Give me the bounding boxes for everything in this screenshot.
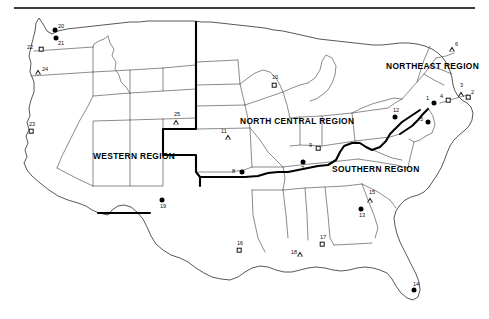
- pa-md-line: [355, 134, 400, 141]
- sd-ne-line: [196, 84, 240, 85]
- triangle-marker-icon: [35, 70, 41, 75]
- id-nv-ut-line: [93, 70, 130, 93]
- nd-sd-line: [196, 60, 238, 62]
- wa-id-line: [93, 36, 108, 47]
- la-ms-line: [283, 190, 288, 238]
- id-mt-line: [108, 36, 130, 93]
- site-number-label: 18: [291, 249, 297, 255]
- square-marker-icon: [39, 47, 44, 52]
- de-md-outline: [409, 136, 426, 142]
- mt-wy-line: [130, 68, 163, 70]
- circle-marker-icon: [432, 101, 437, 106]
- square-marker-icon: [446, 98, 451, 103]
- square-marker-icon: [29, 129, 34, 134]
- ia-il-line: [245, 92, 290, 118]
- sc-nc-line: [362, 184, 396, 208]
- al-ga-line: [325, 187, 334, 245]
- region-label-northeast: NORTHEAST REGION: [386, 62, 479, 71]
- site-number-label: 25: [174, 111, 180, 117]
- tn-ms-al-ga-line: [283, 184, 362, 190]
- site-number-label: 20: [58, 23, 64, 29]
- square-marker-icon: [272, 83, 277, 88]
- map-outline-svg: [0, 0, 489, 319]
- circle-marker-icon: [412, 288, 417, 293]
- site-number-label: 17: [320, 234, 326, 240]
- site-number-label: 24: [42, 66, 48, 72]
- region-label-western: WESTERN REGION: [93, 152, 175, 161]
- square-marker-icon: [237, 248, 242, 253]
- square-marker-icon: [320, 242, 325, 247]
- nv-ut-line: [93, 93, 130, 96]
- mo-il-line: [250, 128, 283, 167]
- triangle-marker-icon: [458, 92, 464, 97]
- ar-ms-line: [283, 167, 285, 190]
- co-wy-line: [163, 89, 196, 91]
- site-number-label: 2: [471, 89, 474, 95]
- site-number-label: 6: [455, 41, 458, 47]
- ne-states-line-1: [424, 74, 444, 85]
- site-number-label: 3: [460, 82, 463, 88]
- tx-la-line: [252, 190, 265, 252]
- region-label-southern: SOUTHERN REGION: [332, 165, 420, 174]
- site-number-label: 22: [27, 44, 33, 50]
- circle-marker-icon: [301, 160, 306, 165]
- ne-ia-line: [240, 84, 245, 105]
- ca-nv-line: [57, 72, 93, 168]
- triangle-marker-icon: [297, 252, 303, 257]
- site-number-label: 4: [440, 93, 443, 99]
- wy-ut-co-line: [130, 68, 163, 93]
- circle-marker-icon: [393, 115, 398, 120]
- site-number-label: 10: [272, 74, 278, 80]
- ca-az-line: [57, 168, 93, 186]
- circle-marker-icon: [160, 198, 165, 203]
- triangle-marker-icon: [367, 198, 373, 203]
- ga-fl-line: [334, 243, 372, 245]
- site-number-label: 19: [160, 203, 166, 209]
- site-number-label: 23: [29, 121, 35, 127]
- triangle-marker-icon: [225, 135, 231, 140]
- circle-marker-icon: [53, 28, 58, 33]
- site-number-label: 16: [237, 240, 243, 246]
- site-number-label: 1: [426, 95, 429, 101]
- ms-al-line: [305, 188, 308, 240]
- wi-mi-line: [283, 83, 308, 92]
- triangle-marker-icon: [449, 47, 455, 52]
- site-number-label: 13: [359, 212, 365, 218]
- site-number-label: 14: [413, 281, 419, 287]
- site-number-label: 9: [309, 142, 312, 148]
- circle-marker-icon: [359, 207, 364, 212]
- nm-co-line: [130, 119, 163, 120]
- site-number-label: 12: [393, 107, 399, 113]
- circle-marker-icon: [426, 120, 431, 125]
- site-number-label: 7: [301, 165, 304, 171]
- western-region-boundary: [163, 22, 200, 186]
- ok-tx-line: [163, 155, 252, 172]
- ut-az-line: [93, 93, 130, 186]
- ok-ar-line: [250, 128, 252, 167]
- us-regions-map: WESTERN REGION NORTH CENTRAL REGION NORT…: [0, 0, 489, 319]
- square-marker-icon: [466, 95, 471, 100]
- site-number-label: 8: [232, 168, 235, 174]
- nd-mn-line: [238, 60, 240, 84]
- ne-ks-line: [196, 105, 245, 106]
- circle-marker-icon: [240, 170, 245, 175]
- site-number-label: 5: [420, 116, 423, 122]
- site-number-label: 21: [58, 40, 64, 46]
- site-number-label: 11: [221, 128, 227, 134]
- site-number-label: 15: [369, 189, 375, 195]
- region-label-north-central: NORTH CENTRAL REGION: [240, 117, 354, 126]
- mi-lake-line: [308, 55, 336, 101]
- triangle-marker-icon: [173, 120, 179, 125]
- square-marker-icon: [316, 146, 321, 151]
- mt-nd-line: [163, 65, 196, 68]
